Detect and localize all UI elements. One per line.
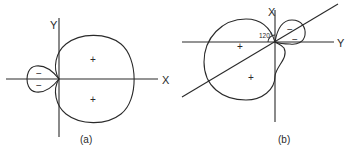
a-minus-sign-lower: −	[36, 80, 42, 91]
a-x-axis-label: X	[162, 74, 170, 86]
b-caption: (b)	[278, 134, 290, 145]
b-y-axis-label: Y	[337, 37, 345, 49]
a-y-axis-label: Y	[50, 19, 58, 31]
a-plus-sign-lower: +	[90, 94, 96, 105]
b-x-axis-label: X	[268, 6, 276, 18]
a-minus-sign-upper: −	[36, 68, 42, 79]
b-plus-sign-lower: +	[248, 72, 254, 83]
a-caption: (a)	[80, 134, 92, 145]
figure-a: Y X + + − − (a)	[6, 18, 170, 145]
b-angle-label: 120°	[259, 32, 273, 39]
figure-b: X Y 120° + + − − (b)	[182, 4, 345, 145]
diagram-canvas: Y X + + − − (a) X Y 120° + + − − (b)	[0, 0, 347, 149]
a-plus-sign-upper: +	[90, 54, 96, 65]
b-plus-sign-upper: +	[237, 41, 243, 52]
b-minus-sign-lower: −	[292, 34, 298, 45]
